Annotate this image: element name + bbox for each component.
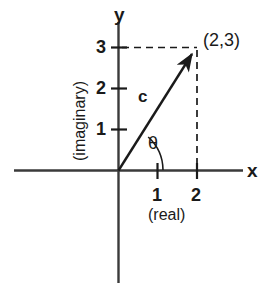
vector-arrow [119,54,193,171]
point-label: (2,3) [203,31,240,49]
x-axis-label: x [247,161,258,180]
x-tick-label-2: 2 [191,186,201,204]
angle-label: θ [148,134,158,152]
x-axis-caption: (real) [148,207,185,223]
y-tick-label-3: 3 [96,38,106,56]
y-tick-label-2: 2 [96,79,106,97]
y-axis-caption: (imaginary) [72,81,88,161]
complex-plane-diagram: y x 3 2 1 1 2 (2,3) c θ (real) (imaginar… [0,0,275,288]
x-tick-label-1: 1 [152,186,162,204]
vector-magnitude-label: c [138,88,147,105]
y-axis-label: y [114,5,125,24]
y-tick-label-1: 1 [96,120,106,138]
